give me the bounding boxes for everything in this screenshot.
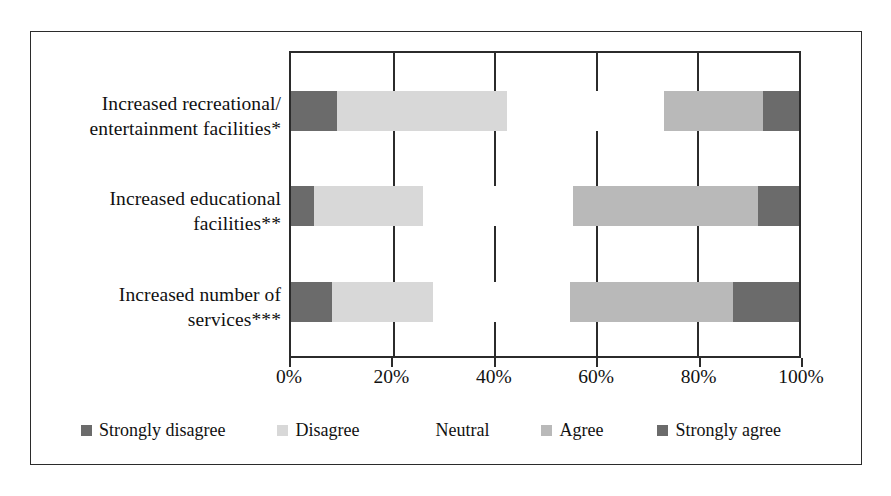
legend-swatch-icon bbox=[81, 425, 92, 436]
legend-swatch-icon bbox=[541, 425, 552, 436]
legend-item-agree: Agree bbox=[541, 420, 603, 441]
bar-segment-disagree bbox=[314, 186, 423, 226]
category-label-line2: facilities** bbox=[51, 212, 281, 237]
legend-item-strongly-disagree: Strongly disagree bbox=[81, 420, 225, 441]
bar-segment-neutral bbox=[423, 186, 573, 226]
bar-segment-neutral bbox=[507, 91, 664, 131]
bar-row-educational bbox=[291, 186, 799, 226]
x-axis-label-0: 0% bbox=[276, 366, 302, 388]
legend-label: Agree bbox=[559, 420, 603, 441]
bar-segment-neutral bbox=[433, 282, 570, 322]
category-label-line1: Increased educational bbox=[51, 187, 281, 212]
bar-segment-disagree bbox=[332, 282, 434, 322]
bar-segment-strongly-agree bbox=[758, 186, 799, 226]
category-label-recreational: Increased recreational/ entertainment fa… bbox=[51, 92, 281, 142]
bar-segment-strongly-disagree bbox=[291, 91, 337, 131]
legend-item-neutral: Neutral bbox=[417, 420, 489, 441]
bar-segment-agree bbox=[570, 282, 733, 322]
bar-segment-agree bbox=[664, 91, 763, 131]
category-label-line1: Increased number of bbox=[51, 283, 281, 308]
bar-row-services bbox=[291, 282, 799, 322]
category-label-line2: entertainment facilities* bbox=[51, 117, 281, 142]
legend-label: Neutral bbox=[435, 420, 489, 441]
category-label-line1: Increased recreational/ bbox=[51, 92, 281, 117]
legend-swatch-icon bbox=[277, 425, 288, 436]
bar-segment-strongly-agree bbox=[733, 282, 799, 322]
legend-label: Strongly agree bbox=[675, 420, 780, 441]
bar-segment-strongly-agree bbox=[763, 91, 799, 131]
category-label-educational: Increased educational facilities** bbox=[51, 187, 281, 237]
x-axis-label-100: 100% bbox=[778, 366, 824, 388]
legend-item-strongly-agree: Strongly agree bbox=[657, 420, 780, 441]
bar-segment-strongly-disagree bbox=[291, 186, 314, 226]
chart-legend: Strongly disagree Disagree Neutral Agree… bbox=[59, 415, 839, 445]
legend-label: Disagree bbox=[295, 420, 359, 441]
bar-segment-strongly-disagree bbox=[291, 282, 332, 322]
x-axis-label-40: 40% bbox=[476, 366, 512, 388]
x-axis-labels: 0% 20% 40% 60% 80% 100% bbox=[289, 366, 801, 394]
legend-item-disagree: Disagree bbox=[277, 420, 359, 441]
plot-area bbox=[289, 51, 801, 358]
chart-figure: Increased recreational/ entertainment fa… bbox=[30, 31, 862, 465]
legend-swatch-icon bbox=[657, 425, 668, 436]
bar-segment-disagree bbox=[337, 91, 507, 131]
category-label-services: Increased number of services*** bbox=[51, 283, 281, 333]
category-label-line2: services*** bbox=[51, 308, 281, 333]
bar-segment-agree bbox=[573, 186, 758, 226]
x-axis-label-20: 20% bbox=[374, 366, 410, 388]
x-axis-label-60: 60% bbox=[578, 366, 614, 388]
legend-swatch-icon bbox=[417, 425, 428, 436]
legend-label: Strongly disagree bbox=[99, 420, 225, 441]
bar-row-recreational bbox=[291, 91, 799, 131]
x-axis-label-80: 80% bbox=[681, 366, 717, 388]
